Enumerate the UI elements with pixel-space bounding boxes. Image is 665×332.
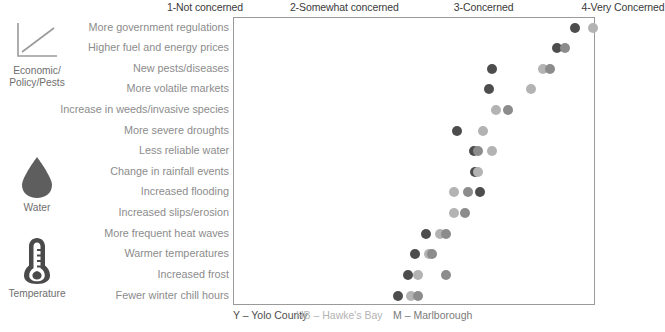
category-row-labels: More government regulationsHigher fuel a…: [70, 17, 229, 305]
data-point-HB-6: [487, 146, 497, 156]
x-axis-tick-labels: 1-Not concerned2-Somewhat concerned3-Con…: [233, 1, 595, 17]
row-label-1: Higher fuel and energy prices: [88, 41, 229, 53]
x-axis-tick-label-3: 3-Concerned: [454, 1, 514, 13]
data-point-Y-12: [403, 270, 413, 280]
chart-legend: Y – Yolo CountyHB – Hawke's BayM – Marlb…: [233, 309, 595, 327]
row-label-4: Increase in weeds/invasive species: [60, 103, 229, 115]
data-point-Y-11: [410, 249, 420, 259]
category-group-temperature-label: Temperature: [4, 288, 70, 300]
row-label-9: Increased slips/erosion: [119, 206, 229, 218]
data-point-HB-12: [413, 270, 423, 280]
data-point-HB-5: [478, 126, 488, 136]
row-label-8: Increased flooding: [141, 185, 229, 197]
data-point-HB-8: [449, 187, 459, 197]
category-group-water: Water: [4, 155, 70, 214]
row-label-12: Increased frost: [158, 268, 229, 280]
data-point-Y-3: [484, 84, 494, 94]
data-point-Y-13: [393, 291, 403, 301]
row-label-6: Less reliable water: [139, 144, 229, 156]
data-point-M-12: [441, 270, 451, 280]
water-drop-icon: [18, 155, 56, 199]
plot-frame: [233, 17, 595, 305]
thermometer-icon: [22, 237, 52, 285]
row-label-5: More severe droughts: [124, 124, 229, 136]
data-point-M-6: [473, 146, 483, 156]
category-group-economic-label-line2: Policy/Pests: [4, 77, 70, 89]
category-group-water-label: Water: [4, 202, 70, 214]
row-label-3: More volatile markets: [126, 82, 229, 94]
row-label-13: Fewer winter chill hours: [116, 289, 229, 301]
data-point-Y-0: [570, 23, 580, 33]
legend-entry-1: HB – Hawke's Bay: [296, 309, 383, 321]
data-point-M-10: [441, 229, 451, 239]
row-label-2: New pests/diseases: [133, 62, 229, 74]
data-point-Y-5: [452, 126, 462, 136]
data-point-M-4: [503, 105, 513, 115]
data-point-Y-10: [421, 229, 431, 239]
row-label-0: More government regulations: [89, 21, 229, 33]
data-point-Y-2: [487, 64, 497, 74]
category-group-temperature: Temperature: [4, 237, 70, 300]
data-point-HB-4: [491, 105, 501, 115]
x-axis-tick-label-1: 1-Not concerned: [167, 1, 243, 13]
data-point-HB-9: [449, 208, 459, 218]
data-point-M-8: [463, 187, 473, 197]
data-point-HB-3: [526, 84, 536, 94]
x-axis-tick-label-2: 2-Somewhat concerned: [290, 1, 399, 13]
x-axis-tick-label-4: 4-Very Concerned: [581, 1, 664, 13]
row-label-7: Change in rainfall events: [110, 165, 229, 177]
data-point-HB-7: [473, 167, 483, 177]
data-point-M-2: [545, 64, 555, 74]
row-label-11: Warmer temperatures: [124, 247, 229, 259]
category-group-economic-label-line1: Economic/: [4, 65, 70, 77]
data-point-HB-0: [588, 23, 598, 33]
category-group-economic: Economic/ Policy/Pests: [4, 20, 70, 89]
data-point-M-11: [427, 249, 437, 259]
plot-area: [234, 18, 594, 304]
data-point-Y-8: [475, 187, 485, 197]
legend-entry-2: M – Marlborough: [393, 309, 472, 321]
row-label-10: More frequent heat waves: [104, 227, 229, 239]
data-point-M-1: [560, 43, 570, 53]
data-point-M-9: [460, 208, 470, 218]
line-chart-icon: [14, 20, 60, 62]
data-point-M-13: [413, 291, 423, 301]
